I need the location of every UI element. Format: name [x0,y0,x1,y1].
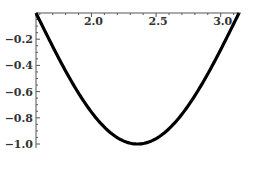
x-tick-label: 2.0 [84,15,103,28]
x-tick-label: 3.0 [213,15,232,28]
y-tick-label: −0.2 [5,33,33,46]
x-tick-label: 2.5 [149,15,168,28]
data-curve [36,13,239,144]
axes [36,13,241,148]
y-tick-label: −0.8 [5,112,34,125]
tick-labels: 2.02.53.0−0.2−0.4−0.6−0.8−1.0 [5,15,233,151]
y-tick-label: −1.0 [5,138,34,151]
y-tick-label: −0.4 [5,59,34,72]
line-chart: 2.02.53.0−0.2−0.4−0.6−0.8−1.0 [0,0,256,169]
y-tick-label: −0.6 [5,86,34,99]
